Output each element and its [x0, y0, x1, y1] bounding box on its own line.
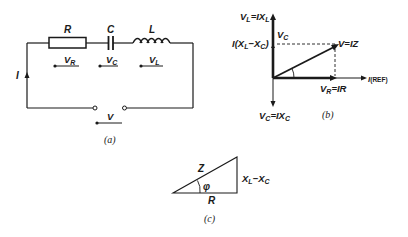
phi-label: φ: [203, 181, 210, 192]
inductor-label: L: [149, 24, 155, 35]
vl-ixl-label: VL=IXL: [240, 11, 269, 23]
caption-b: (b): [322, 109, 334, 121]
caption-a: (a): [104, 134, 116, 146]
supply-arrowhead-icon: [95, 121, 98, 124]
phi-angle-arc: [198, 181, 201, 194]
current-arrow-icon: [25, 72, 30, 78]
vr-label: VR: [64, 54, 75, 66]
v-iz-label: V=IZ: [338, 38, 360, 49]
impedance-triangle: Z φ R XL−XC (c): [173, 157, 271, 225]
r-label: R: [208, 195, 216, 206]
terminal-left: [93, 106, 97, 110]
net-reactive-marker-icon: [271, 44, 275, 48]
vl-arrowhead-icon: [139, 64, 142, 67]
vc-phasor-arrow-icon: [271, 101, 276, 107]
resistor-symbol: [49, 38, 86, 49]
ref-axis-arrow-icon: [361, 76, 367, 81]
series-rlc-figure: R C L I VR VC VL V (a): [0, 0, 408, 237]
terminal-right: [123, 106, 127, 110]
ref-axis-label: I(REF): [368, 75, 388, 84]
phase-angle-arc: [292, 69, 294, 79]
vc-label: VC: [106, 54, 118, 66]
capacitor-label: C: [107, 24, 115, 35]
vr-phasor-arrow-icon: [330, 75, 337, 81]
phasor-diagram: VL=IXL I(XL−XC) VC V=IZ VR=IR I(REF) VC=…: [232, 11, 388, 122]
vc-arrowhead-icon: [98, 64, 101, 67]
v-phasor-line: [273, 47, 334, 78]
vc-small-label: VC: [277, 29, 289, 41]
inductor-symbol: [133, 39, 170, 44]
vc-ixc-label: VC=IXC: [259, 110, 291, 122]
z-label: Z: [197, 163, 205, 174]
vr-arrowhead-icon: [53, 64, 56, 67]
vl-label: VL: [149, 54, 160, 66]
caption-c: (c): [204, 213, 216, 225]
xl-xc-label: XL−XC: [241, 173, 271, 185]
vr-ir-label: VR=IR: [320, 83, 347, 95]
net-reactance-label: I(XL−XC): [232, 38, 269, 50]
circuit-diagram: R C L I VR VC VL V (a): [16, 24, 193, 146]
supply-voltage-label: V: [107, 111, 114, 122]
vl-phasor-arrow-icon: [270, 14, 276, 21]
resistor-label: R: [64, 24, 72, 35]
current-label: I: [16, 70, 19, 81]
